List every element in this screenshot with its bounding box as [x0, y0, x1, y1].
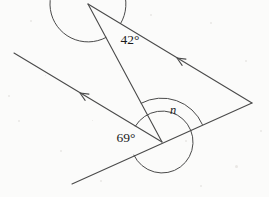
arc-42-degrees — [50, 0, 126, 42]
arc-69-degrees — [134, 111, 193, 173]
segment-bottom-vertex-to-left-ray — [14, 53, 162, 142]
geometry-canvas: 42° 69° n — [0, 0, 269, 197]
arcs-group — [50, 0, 202, 173]
parallel-arrow-markers — [80, 58, 186, 100]
labels-group: 42° 69° n — [117, 32, 177, 145]
lines-group — [14, 4, 252, 184]
segment-apex-to-right-vertex — [88, 4, 252, 103]
angle-label-n: n — [170, 103, 176, 117]
segment-bottom-transversal-line — [72, 103, 252, 184]
geometry-figure: 42° 69° n — [0, 0, 269, 197]
angle-label-69-degrees: 69° — [117, 130, 136, 145]
segment-apex-to-bottom-vertex — [88, 4, 162, 142]
angle-label-42-degrees: 42° — [121, 32, 140, 47]
